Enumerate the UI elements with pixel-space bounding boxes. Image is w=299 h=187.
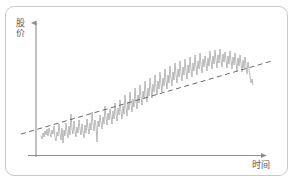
y-axis-label: 股 价 bbox=[14, 18, 27, 38]
price-series-line bbox=[41, 49, 253, 143]
trend-line bbox=[21, 61, 272, 134]
x-axis-label: 时间 bbox=[252, 160, 270, 170]
chart-figure: 股 价 时间 bbox=[0, 0, 299, 187]
chart-plot-area bbox=[0, 0, 299, 187]
